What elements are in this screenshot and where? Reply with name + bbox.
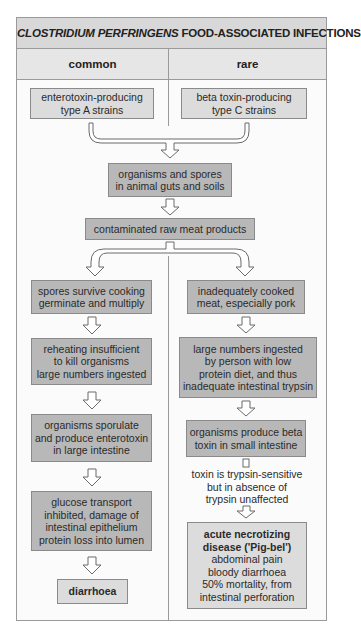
split-arrow-icon xyxy=(86,242,254,276)
merge-arrow-icon xyxy=(89,123,249,158)
down-arrow-icon xyxy=(83,317,101,334)
blocked-step-icon xyxy=(243,459,249,467)
down-arrow-icon xyxy=(161,199,179,215)
down-arrow-icon xyxy=(83,469,101,486)
down-arrow-icon xyxy=(83,392,101,409)
down-arrow-icon xyxy=(83,557,101,574)
down-arrow-icon xyxy=(237,506,255,518)
down-arrow-icon xyxy=(237,401,255,416)
down-arrow-icon xyxy=(237,317,255,333)
